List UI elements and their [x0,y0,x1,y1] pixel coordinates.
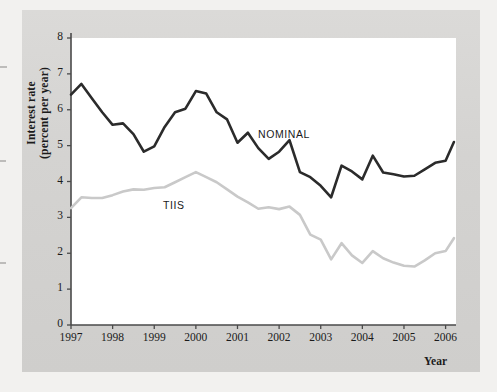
x-tick-label: 2005 [384,331,424,343]
y-tick-label: 2 [49,245,63,257]
y-tick-label: 0 [49,317,63,329]
x-tick-label: 1997 [51,331,91,343]
y-tick-label: 8 [49,30,63,42]
y-tick-label: 7 [49,66,63,78]
x-tick-label: 2003 [301,331,341,343]
series-line-nominal [71,84,454,197]
axes-group [67,33,456,329]
y-tick-label: 3 [49,209,63,221]
x-tick-label: 2006 [426,331,466,343]
figure-root: Interest rate (percent per year) Year NO… [0,0,497,392]
series-group [71,84,454,267]
x-tick-label: 1999 [134,331,174,343]
x-tick-label: 2000 [176,331,216,343]
x-tick-label: 2001 [217,331,257,343]
x-tick-label: 1998 [93,331,133,343]
y-tick-label: 4 [49,174,63,186]
series-line-tiis [71,172,454,266]
x-tick-label: 2004 [342,331,382,343]
y-tick-label: 1 [49,281,63,293]
y-tick-label: 5 [49,138,63,150]
y-tick-label: 6 [49,102,63,114]
x-tick-label: 2002 [259,331,299,343]
